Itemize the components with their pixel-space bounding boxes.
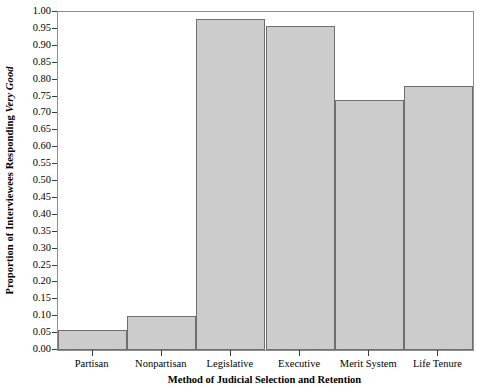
y-axis-tick-label: 0.60 bbox=[18, 141, 51, 152]
y-axis-tick-label: 0.35 bbox=[18, 225, 51, 236]
plot-area bbox=[57, 11, 474, 351]
y-axis-tick-label: 0.10 bbox=[18, 310, 51, 321]
y-axis-tick-label: 0.85 bbox=[18, 56, 51, 67]
y-axis-tick-label: 0.05 bbox=[18, 327, 51, 338]
y-axis-tick-label: 0.50 bbox=[18, 175, 51, 186]
x-axis-tick-marks bbox=[57, 350, 473, 356]
y-axis-tick-label: 0.90 bbox=[18, 40, 51, 51]
x-axis-tick-labels: PartisanNonpartisanLegislativeExecutiveM… bbox=[57, 357, 472, 373]
y-axis-title-italic: Very Good bbox=[4, 66, 15, 112]
y-axis-tick-label: 0.40 bbox=[18, 209, 51, 220]
x-axis-tick-label-merit-system: Merit System bbox=[334, 357, 403, 371]
y-axis-tick-labels: 0.000.050.100.150.200.250.300.350.400.45… bbox=[18, 0, 51, 392]
bar-merit-system bbox=[335, 100, 404, 350]
y-axis-tick-label: 0.25 bbox=[18, 259, 51, 270]
bar-series bbox=[58, 12, 473, 350]
bar-life-tenure bbox=[404, 86, 473, 350]
y-axis-tick-label: 0.20 bbox=[18, 276, 51, 287]
x-axis-tick-label-nonpartisan: Nonpartisan bbox=[126, 357, 195, 371]
y-axis-tick-label: 0.45 bbox=[18, 192, 51, 203]
x-axis-tick-mark bbox=[161, 350, 162, 356]
x-axis-tick-mark bbox=[437, 350, 438, 356]
x-axis-tick-label-legislative: Legislative bbox=[195, 357, 264, 371]
y-axis-tick-label: 1.00 bbox=[18, 6, 51, 17]
y-axis-tick-label: 0.30 bbox=[18, 242, 51, 253]
x-axis-tick-mark bbox=[368, 350, 369, 356]
x-axis-tick-label-executive: Executive bbox=[265, 357, 334, 371]
bar-legislative bbox=[196, 19, 265, 350]
y-axis-tick-label: 0.80 bbox=[18, 73, 51, 84]
x-axis-tick-mark bbox=[299, 350, 300, 356]
y-axis-title-prefix: Proportion of Interviewees Responding bbox=[4, 112, 15, 294]
y-axis-title: Proportion of Interviewees Responding Ve… bbox=[0, 0, 18, 360]
y-axis-tick-label: 0.70 bbox=[18, 107, 51, 118]
y-axis-tick-label: 0.95 bbox=[18, 23, 51, 34]
bar-nonpartisan bbox=[127, 316, 196, 350]
y-axis-tick-label: 0.00 bbox=[18, 344, 51, 355]
x-axis-tick-mark bbox=[92, 350, 93, 356]
x-axis-tick-mark bbox=[230, 350, 231, 356]
bar-chart-figure: Proportion of Interviewees Responding Ve… bbox=[0, 0, 477, 392]
x-axis-title: Method of Judicial Selection and Retenti… bbox=[57, 374, 472, 385]
y-axis-tick-label: 0.15 bbox=[18, 293, 51, 304]
x-axis-tick-label-partisan: Partisan bbox=[57, 357, 126, 371]
bar-executive bbox=[266, 26, 335, 350]
bar-partisan bbox=[58, 330, 127, 350]
x-axis-tick-label-life-tenure: Life Tenure bbox=[403, 357, 472, 371]
y-axis-tick-label: 0.55 bbox=[18, 158, 51, 169]
y-axis-tick-label: 0.65 bbox=[18, 124, 51, 135]
y-axis-tick-label: 0.75 bbox=[18, 90, 51, 101]
